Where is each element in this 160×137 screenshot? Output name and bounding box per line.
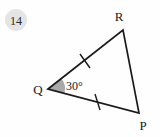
question-number-label: 14 [10, 14, 22, 28]
geometry-canvas: 14 Q R P 30° [0, 0, 160, 137]
vertex-label-r: R [115, 9, 124, 24]
geometry-figure: 14 Q R P 30° [0, 0, 160, 137]
vertex-label-p: P [139, 118, 146, 133]
vertex-label-q: Q [33, 82, 43, 97]
angle-measure-label: 30° [66, 79, 83, 93]
